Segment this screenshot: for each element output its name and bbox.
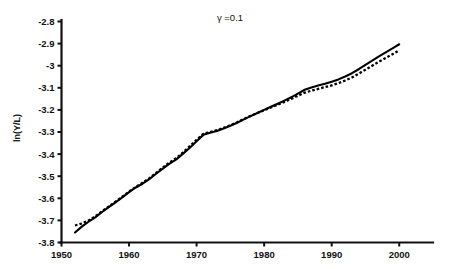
series-group (75, 44, 399, 232)
y-tick-label: -2.9 (38, 38, 54, 49)
y-axis-title: ln(Y/L) (12, 114, 22, 142)
x-tick-label: 1950 (51, 249, 72, 260)
y-axis-ticks: -2.8-2.9-3-3.1-3.2-3.3-3.4-3.5-3.6-3.7-3… (38, 16, 61, 248)
x-axis-ticks: 195019601970198019902000 (51, 243, 410, 261)
x-tick-label: 1990 (321, 249, 342, 260)
y-tick-label: -3.8 (38, 237, 54, 248)
y-tick-label: -3 (46, 60, 54, 71)
line-chart: γ =0.1 ln(Y/L) -2.8-2.9-3-3.1-3.2-3.3-3.… (0, 0, 450, 269)
y-tick-label: -3.6 (38, 193, 54, 204)
y-tick-label: -3.2 (38, 104, 54, 115)
x-tick-label: 1980 (254, 249, 275, 260)
y-tick-label: -3.5 (38, 171, 55, 182)
y-tick-label: -3.1 (38, 82, 55, 93)
x-tick-label: 1960 (118, 249, 139, 260)
x-tick-label: 2000 (389, 249, 410, 260)
y-tick-label: -2.8 (38, 16, 54, 27)
series-line-actual (75, 44, 399, 232)
y-tick-label: -3.4 (38, 149, 55, 160)
x-tick-label: 1970 (186, 249, 207, 260)
y-tick-label: -3.7 (38, 215, 54, 226)
y-tick-label: -3.3 (38, 126, 54, 137)
chart-figure: γ =0.1 ln(Y/L) -2.8-2.9-3-3.1-3.2-3.3-3.… (0, 0, 450, 269)
series-line-fitted (75, 50, 399, 225)
chart-title: γ =0.1 (217, 12, 243, 23)
